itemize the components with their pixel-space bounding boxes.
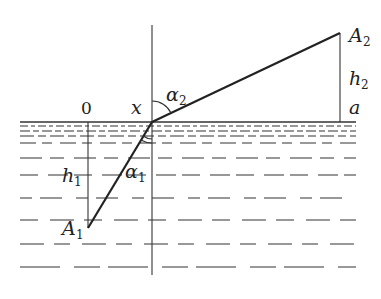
alpha2-label: α 2 [166, 83, 187, 108]
ray-refracted [152, 33, 340, 122]
water-region [20, 122, 356, 267]
svg-text:1: 1 [138, 171, 146, 185]
svg-text:1: 1 [76, 228, 84, 242]
svg-text:A: A [347, 24, 363, 46]
alpha1-label: α 1 [125, 160, 146, 185]
svg-text:1: 1 [74, 175, 82, 189]
a-label: a [349, 96, 360, 118]
h1-label: h 1 [62, 164, 82, 189]
A2-label: A 2 [347, 24, 371, 49]
svg-text:h: h [62, 164, 74, 186]
svg-text:α: α [125, 160, 138, 182]
A1-label: A 1 [60, 217, 84, 242]
svg-text:2: 2 [361, 78, 369, 92]
svg-text:2: 2 [179, 94, 187, 108]
svg-text:A: A [60, 217, 76, 239]
svg-text:h: h [349, 67, 361, 89]
refraction-diagram: 0 x α 2 α 1 h 1 A 1 A 2 h 2 a [0, 0, 381, 299]
svg-text:2: 2 [363, 35, 371, 49]
h2-label: h 2 [349, 67, 369, 92]
svg-text:α: α [166, 83, 179, 105]
origin-label: 0 [81, 98, 92, 118]
x-label: x [131, 96, 142, 118]
